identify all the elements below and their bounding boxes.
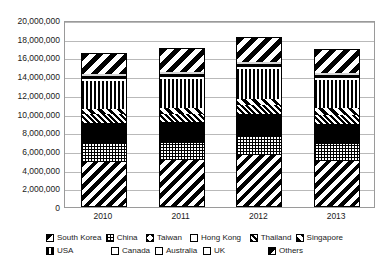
legend-swatch-icon <box>296 234 304 242</box>
legend-item-label: South Korea <box>57 233 101 242</box>
chart-legend: South KoreaChinaTaiwanHong KongThailandS… <box>46 231 346 257</box>
legend-item-australia[interactable]: Australia <box>155 246 203 255</box>
legend-item-label: China <box>117 233 138 242</box>
gridline <box>65 22 374 23</box>
legend-item-label: Others <box>279 246 303 255</box>
legend-swatch-icon <box>106 234 114 242</box>
bar-segment-others <box>236 37 282 62</box>
legend-swatch-icon <box>155 247 163 255</box>
x-axis-tick-label: 2013 <box>306 211 366 221</box>
legend-swatch-icon <box>250 234 258 242</box>
x-axis-tick-label: 2012 <box>228 211 288 221</box>
bar-segment-thailand <box>314 115 360 123</box>
legend-item-label: Taiwan <box>157 233 182 242</box>
y-axis-tick-label: 18,000,000 <box>17 35 60 44</box>
legend-item-south-korea[interactable]: South Korea <box>46 233 106 242</box>
bar-segment-usa <box>159 79 205 108</box>
bar-segment-south-korea <box>81 162 127 207</box>
legend-swatch-icon <box>146 234 154 242</box>
y-axis-tick-label: 14,000,000 <box>17 73 60 82</box>
legend-item-label: Singapore <box>307 233 343 242</box>
x-axis-tick-label: 2011 <box>151 211 211 221</box>
legend-item-label: Canada <box>122 246 150 255</box>
legend-item-china[interactable]: China <box>106 233 146 242</box>
legend-item-canada[interactable]: Canada <box>111 246 155 255</box>
plot-area <box>64 21 375 208</box>
legend-item-label: UK <box>214 246 225 255</box>
bar-segment-thailand <box>236 105 282 113</box>
bar-segment-china <box>236 136 282 155</box>
bar-segment-south-korea <box>236 155 282 207</box>
bar-segment-china <box>159 143 205 161</box>
x-axis-tick-label: 2010 <box>73 211 133 221</box>
y-axis-tick-label: 20,000,000 <box>17 17 60 26</box>
bar-segment-hong-kong <box>81 123 127 138</box>
legend-item-thailand[interactable]: Thailand <box>250 233 296 242</box>
legend-row-2: USACanadaAustraliaUKOthers <box>46 244 346 257</box>
bar-2010 <box>81 53 127 207</box>
y-axis-tick-label: 12,000,000 <box>17 91 60 100</box>
y-axis-tick-label: 4,000,000 <box>22 166 60 175</box>
legend-item-label: USA <box>57 246 73 255</box>
bar-segment-others <box>81 53 127 75</box>
y-axis-tick-label: 2,000,000 <box>22 185 60 194</box>
y-axis-tick-label: 0 <box>55 204 60 213</box>
y-axis-tick-label: 10,000,000 <box>17 110 60 119</box>
legend-item-label: Australia <box>166 246 197 255</box>
legend-item-usa[interactable]: USA <box>46 246 111 255</box>
bar-segment-others <box>159 48 205 72</box>
legend-swatch-icon <box>46 247 54 255</box>
legend-swatch-icon <box>203 247 211 255</box>
gridline <box>65 41 374 42</box>
y-axis-tick-label: 16,000,000 <box>17 54 60 63</box>
bar-segment-south-korea <box>314 161 360 207</box>
legend-swatch-icon <box>190 234 198 242</box>
bar-segment-thailand <box>81 114 127 122</box>
bar-segment-south-korea <box>159 160 205 207</box>
legend-item-hong-kong[interactable]: Hong Kong <box>190 233 250 242</box>
y-axis-tick-label: 6,000,000 <box>22 147 60 156</box>
bar-segment-singapore <box>314 108 360 115</box>
legend-item-label: Hong Kong <box>201 233 241 242</box>
bar-segment-taiwan <box>236 128 282 135</box>
legend-item-taiwan[interactable]: Taiwan <box>146 233 190 242</box>
legend-item-others[interactable]: Others <box>268 246 318 255</box>
bar-segment-thailand <box>159 114 205 122</box>
legend-item-label: Thailand <box>261 233 292 242</box>
bar-2011 <box>159 48 205 207</box>
legend-row-1: South KoreaChinaTaiwanHong KongThailandS… <box>46 231 346 244</box>
legend-swatch-icon <box>46 234 54 242</box>
stacked-bar-chart: 20,000,00018,000,00016,000,00014,000,000… <box>0 0 388 278</box>
bar-segment-hong-kong <box>159 122 205 136</box>
legend-item-uk[interactable]: UK <box>203 246 268 255</box>
bar-segment-china <box>81 144 127 162</box>
legend-swatch-icon <box>111 247 119 255</box>
bar-segment-china <box>314 144 360 161</box>
legend-item-singapore[interactable]: Singapore <box>296 233 346 242</box>
y-axis-tick-label: 8,000,000 <box>22 129 60 138</box>
bar-2012 <box>236 37 282 207</box>
bar-segment-others <box>314 49 360 73</box>
y-axis-labels: 20,000,00018,000,00016,000,00014,000,000… <box>0 21 60 208</box>
bar-2013 <box>314 49 360 207</box>
bar-segment-hong-kong <box>236 114 282 129</box>
bar-segment-usa <box>236 69 282 99</box>
legend-swatch-icon <box>268 247 276 255</box>
bar-segment-usa <box>81 81 127 109</box>
bar-segment-hong-kong <box>314 124 360 138</box>
bar-segment-usa <box>314 80 360 108</box>
